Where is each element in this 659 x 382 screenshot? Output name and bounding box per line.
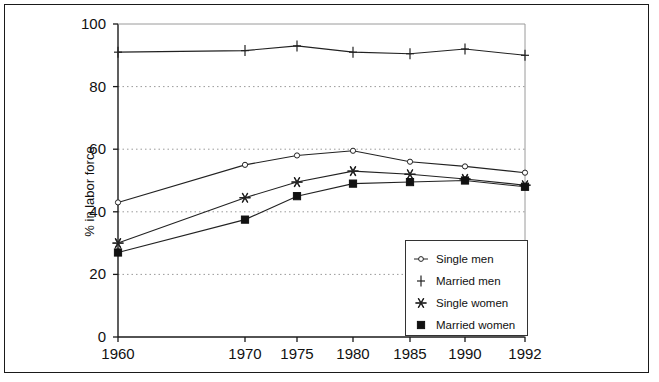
data-series-layer [113,40,531,256]
legend: Single menMarried menSingle womenMarried… [405,240,528,336]
legend-item: Single women [412,292,508,314]
legend-item: Married men [412,270,501,292]
legend-item: Single men [412,248,494,270]
legend-marker-plus-icon [412,274,430,288]
line-chart [0,0,659,382]
legend-label: Married men [436,275,501,287]
legend-marker-open-circle-icon [412,252,430,266]
legend-label: Married women [436,319,515,331]
legend-label: Single men [436,253,494,265]
legend-item: Married women [412,314,515,336]
series-married-men [114,40,529,60]
legend-label: Single women [436,297,508,309]
legend-marker-filled-square-icon [412,318,430,332]
legend-marker-asterisk-icon [412,296,430,310]
